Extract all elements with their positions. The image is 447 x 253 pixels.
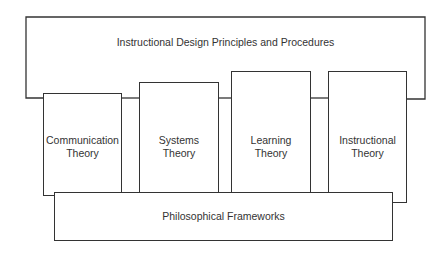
column-learning-theory: Learning Theory bbox=[231, 71, 311, 194]
column-label-line2: Theory bbox=[44, 147, 121, 160]
column-label-line2: Theory bbox=[329, 147, 406, 160]
column-communication-theory: Communication Theory bbox=[43, 93, 122, 196]
base-label: Philosophical Frameworks bbox=[55, 210, 392, 223]
base-philosophical-frameworks: Philosophical Frameworks bbox=[54, 192, 393, 241]
column-label-line1: Instructional bbox=[329, 134, 406, 147]
column-label-line1: Communication bbox=[44, 134, 121, 147]
top-frame-label: Instructional Design Principles and Proc… bbox=[26, 36, 425, 49]
column-label-line1: Systems bbox=[140, 134, 218, 147]
column-systems-theory: Systems Theory bbox=[139, 82, 219, 194]
column-label-line2: Theory bbox=[232, 147, 310, 160]
column-instructional-theory: Instructional Theory bbox=[328, 71, 407, 203]
column-label-line2: Theory bbox=[140, 147, 218, 160]
design-foundations-diagram: Instructional Design Principles and Proc… bbox=[0, 0, 447, 253]
column-label-line1: Learning bbox=[232, 134, 310, 147]
